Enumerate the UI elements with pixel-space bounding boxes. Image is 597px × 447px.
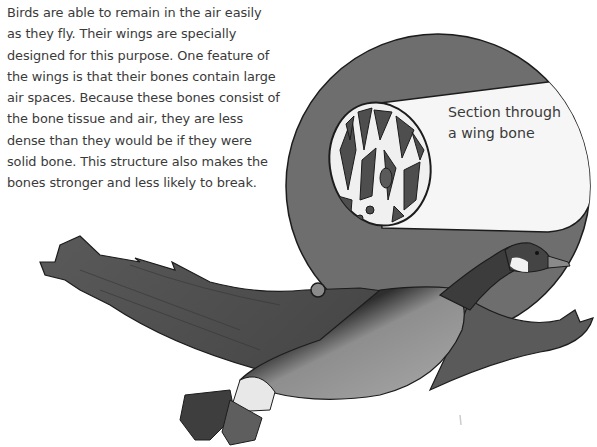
bone-section-label: Section through a wing bone (448, 102, 561, 144)
label-line-2: a wing bone (448, 123, 561, 144)
label-line-1: Section through (448, 102, 561, 123)
goose-eye (535, 251, 539, 255)
goose-illustration (0, 0, 597, 447)
smudge-mark (460, 415, 461, 425)
wing-location-marker (311, 283, 325, 297)
